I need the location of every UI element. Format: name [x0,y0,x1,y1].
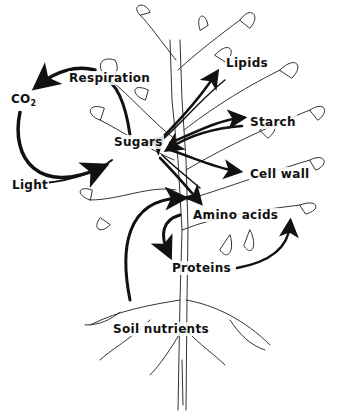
plant-illustration [0,0,346,414]
node-cell-wall: Cell wall [249,167,310,181]
node-soil-nutrients: Soil nutrients [112,322,210,336]
node-respiration: Respiration [68,71,151,85]
node-amino-acids: Amino acids [192,208,279,222]
diagram-canvas: CO2 Respiration Sugars Light Lipids Star… [0,0,346,414]
node-lipids: Lipids [225,56,269,70]
node-light: Light [11,178,49,192]
node-starch: Starch [249,115,297,129]
node-co2: CO2 [10,92,37,111]
node-proteins: Proteins [171,261,232,275]
flow-arrows [18,68,290,300]
node-sugars: Sugars [113,135,164,149]
